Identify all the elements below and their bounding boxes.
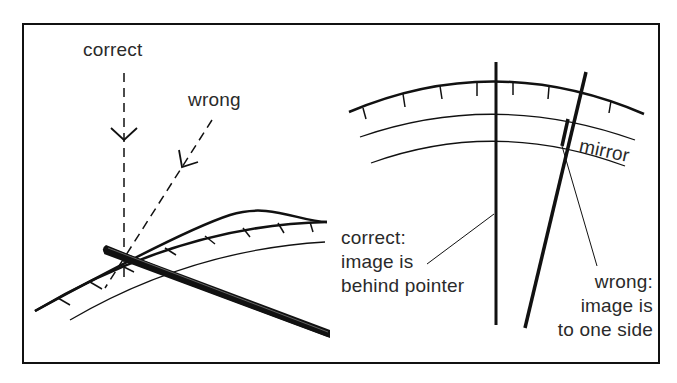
left-panel xyxy=(35,73,330,338)
correct-caption: correct: image is behind pointer xyxy=(341,226,464,298)
wrong-label: wrong xyxy=(188,88,241,112)
wrong-caption-line-1: wrong: xyxy=(558,270,653,294)
meter-ticks xyxy=(363,83,611,119)
wrong-caption-line-2: image is xyxy=(558,294,653,318)
wrong-caption: wrong: image is to one side xyxy=(558,270,653,342)
correct-label: correct xyxy=(83,38,142,62)
correct-caption-line-1: correct: xyxy=(341,226,464,250)
wrong-leader-line xyxy=(562,146,597,266)
wrong-arrow-icon xyxy=(179,150,198,167)
wrong-caption-line-3: to one side xyxy=(558,318,653,342)
wrong-sight-line xyxy=(105,120,212,288)
correct-caption-line-3: behind pointer xyxy=(341,274,464,298)
correct-caption-line-2: image is xyxy=(341,250,464,274)
pointer-reflection xyxy=(562,119,568,146)
